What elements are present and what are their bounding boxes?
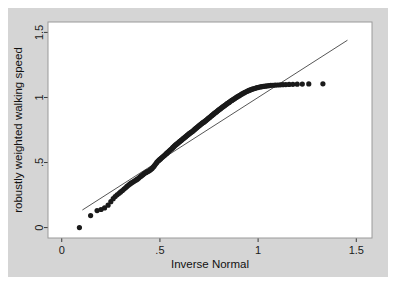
data-point: [88, 213, 93, 218]
y-tick-label: 1.5: [33, 25, 45, 40]
y-tick-label: 0: [33, 225, 45, 231]
x-tick-label: 1.5: [349, 244, 364, 256]
qq-plot-figure: 0.511.5 0.511.5 Inverse Normal robustly …: [0, 0, 396, 292]
data-point: [306, 81, 311, 86]
data-point: [300, 81, 305, 86]
x-axis-title: Inverse Normal: [171, 258, 249, 270]
chart-canvas: 0.511.5 0.511.5 Inverse Normal robustly …: [0, 0, 396, 292]
data-point: [295, 82, 300, 87]
y-tick-label: .5: [33, 158, 45, 167]
plot-area-background: [48, 22, 372, 238]
x-tick-label: .5: [155, 244, 164, 256]
y-axis-title: robustly weighted walking speed: [12, 47, 24, 213]
data-point: [320, 81, 325, 86]
x-tick-label: 1: [255, 244, 261, 256]
x-tick-label: 0: [59, 244, 65, 256]
data-point: [77, 225, 82, 230]
y-tick-label: 1: [33, 94, 45, 100]
